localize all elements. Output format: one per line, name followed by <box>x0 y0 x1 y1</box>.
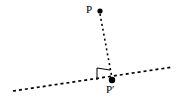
point-p-prime-label: P′ <box>106 84 115 95</box>
geometry-canvas <box>0 0 187 104</box>
geometry-figure: P P′ <box>0 0 187 104</box>
point-p-label: P <box>86 4 92 15</box>
point-p-dot <box>97 8 102 13</box>
dashed-base-line <box>13 67 173 91</box>
